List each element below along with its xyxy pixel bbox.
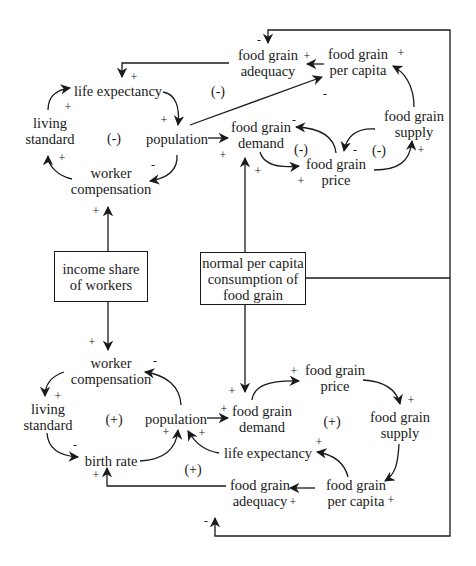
sign-top-12: + [255,165,262,177]
sign-bottom-8: + [229,385,236,397]
edge-adequacy-to-life-expectancy [122,63,229,77]
sign-top-14: - [353,144,357,156]
sign-bottom-7: + [93,469,100,481]
loop-bottom-2: (+) [323,415,340,429]
node-bottom-birth-rate: birth rate [85,453,138,469]
node-top-food-grain-per-capita: food grain per capita [328,46,388,78]
sign-bottom-6: + [199,427,206,439]
sign-top-6: + [220,149,227,161]
sign-top-7: - [257,34,261,46]
edge-supply-to-price [344,129,375,151]
edge-b-supply-to-per-capita [385,444,399,481]
node-bottom-food-grain-supply: food grain supply [370,409,430,441]
sign-top-10: - [323,88,327,100]
box-income-share-of-workers: income share of workers [54,251,148,302]
edge-b-price-to-supply [363,380,400,404]
sign-bottom-12: + [316,436,323,448]
sign-top-9: + [398,47,405,59]
node-top-food-grain-adequacy: food grain adequacy [238,47,298,79]
node-bottom-food-grain-price: food grain price [305,362,365,394]
sign-bottom-10: + [291,365,298,377]
sign-top-8: + [304,50,311,62]
node-top-food-grain-demand: food grain demand [231,119,291,151]
loop-bottom-1: (+) [105,413,122,427]
loop-top-4: (-) [372,144,386,158]
sign-bottom-1: + [89,336,96,348]
loop-top-3: (-) [294,143,308,157]
sign-bottom-3: + [55,390,62,402]
sign-top-5: - [151,159,155,171]
sign-bottom-5: + [163,426,170,438]
node-bottom-population: population [145,411,207,427]
node-bottom-food-grain-adequacy: food grain adequacy [230,477,290,509]
sign-bottom-13: + [388,494,395,506]
node-top-population: population [146,131,208,147]
node-bottom-worker-compensation: worker compensation [71,355,152,387]
sign-bottom-9: + [221,403,228,415]
sign-top-11: - [292,114,296,126]
edge-b-demand-to-price [252,381,299,400]
node-top-living-standard: living standard [25,115,74,147]
sign-top-16: + [93,205,100,217]
node-top-food-grain-price: food grain price [306,156,366,188]
sign-top-2: + [65,101,72,113]
loop-bottom-3: (+) [184,463,201,477]
sign-top-4: + [161,114,168,126]
edge-supply-to-per-capita [393,66,414,107]
sign-top-1: + [131,71,138,83]
node-bottom-food-grain-per-capita: food grain per capita [326,477,386,509]
node-bottom-food-grain-demand: food grain demand [232,403,292,435]
edge-b-per-capita-to-life-expectancy [317,452,348,477]
sign-top-13: + [298,175,305,187]
node-bottom-living-standard: living standard [23,401,72,433]
edge-b-adequacy-to-birth-rate [107,468,226,486]
sign-top-15: + [418,144,425,156]
sign-bottom-11: + [408,394,415,406]
sign-bottom-2: - [153,355,157,367]
edge-b-birth-rate-to-population [140,430,178,461]
node-top-worker-compensation: worker compensation [71,165,152,197]
loop-top-2: (-) [107,132,121,146]
sign-bottom-15: - [204,515,208,527]
sign-bottom-14: + [290,496,297,508]
node-top-food-grain-supply: food grain supply [384,108,444,140]
node-bottom-life-expectancy: life expectancy [224,445,312,461]
edge-population-to-per-capita [190,77,322,125]
sign-top-3: + [59,152,66,164]
sign-bottom-4: - [73,439,77,451]
loop-top-1: (-) [211,85,225,99]
node-top-life-expectancy: life expectancy [74,83,162,99]
box-normal-per-capita-consumption: normal per capita consumption of food gr… [200,252,306,305]
